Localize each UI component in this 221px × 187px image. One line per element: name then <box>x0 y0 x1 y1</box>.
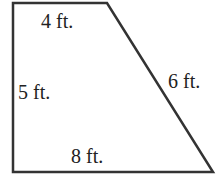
label-top: 4 ft. <box>41 10 73 32</box>
trapezoid-diagram: 4 ft. 5 ft. 6 ft. 8 ft. <box>0 0 221 187</box>
label-slant: 6 ft. <box>168 70 200 92</box>
label-left: 5 ft. <box>18 81 50 103</box>
label-bottom: 8 ft. <box>71 145 103 167</box>
